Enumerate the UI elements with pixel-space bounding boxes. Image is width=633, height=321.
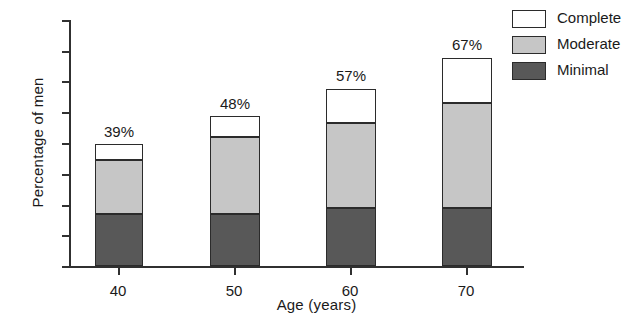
legend-swatch-complete-icon [512,10,546,28]
bar-age-50 [210,20,260,268]
y-tick-30 [62,174,69,176]
legend-label-complete: Complete [557,9,621,26]
stacked-bar-chart: Percentage of men 40 50 60 70 39% [0,0,633,321]
y-tick-70 [62,51,69,53]
legend-item-minimal: Minimal [512,60,633,86]
bar-segment-moderate [210,137,260,214]
bar-segment-moderate [95,160,143,214]
x-tick-50 [234,268,236,275]
y-tick-10 [62,235,69,237]
bar-segment-moderate [326,123,376,208]
y-tick-60 [62,81,69,83]
bar-segment-minimal [442,208,492,267]
y-tick-50 [62,112,69,114]
bar-age-70 [442,20,492,268]
y-tick-0 [62,266,69,268]
bar-segment-complete [210,116,260,136]
bar-age-60 [326,20,376,268]
plot-area: 40 50 60 70 39% 48% 57% [69,20,524,267]
bar-age-40 [95,20,143,268]
legend-swatch-moderate-icon [512,36,546,54]
x-axis-title: Age (years) [0,296,633,313]
y-tick-20 [62,205,69,207]
bar-segment-minimal [210,214,260,267]
bar-segment-complete [95,144,143,159]
bar-segment-minimal [326,208,376,267]
bar-segment-complete [442,58,492,103]
legend-label-minimal: Minimal [557,61,609,78]
x-tick-60 [350,268,352,275]
x-tick-40 [118,268,120,275]
y-tick-80 [62,20,69,22]
legend-swatch-minimal-icon [512,62,546,80]
x-tick-70 [466,268,468,275]
legend-label-moderate: Moderate [557,35,620,52]
bar-segment-complete [326,89,376,123]
bar-segment-minimal [95,214,143,267]
legend: Complete Moderate Minimal [512,8,633,86]
bar-total-label-2: 48% [195,95,275,112]
y-tick-40 [62,143,69,145]
legend-item-complete: Complete [512,8,633,34]
legend-item-moderate: Moderate [512,34,633,60]
y-axis-line [69,20,71,268]
y-axis-title: Percentage of men [29,28,46,258]
bar-total-label-1: 39% [79,123,159,140]
bar-total-label-3: 57% [311,67,391,84]
bar-total-label-4: 67% [427,36,507,53]
bar-segment-moderate [442,103,492,208]
